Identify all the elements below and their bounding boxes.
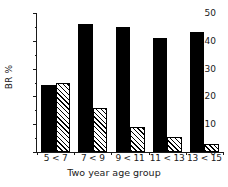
bar-solid bbox=[153, 38, 168, 152]
bar-solid bbox=[116, 27, 131, 152]
bar-group bbox=[41, 13, 70, 152]
x-tick-label: 7 < 9 bbox=[81, 153, 105, 163]
x-tick-label: 13 < 15 bbox=[187, 153, 222, 163]
bar-group bbox=[116, 13, 145, 152]
bar-solid bbox=[190, 32, 205, 152]
y-axis-label: BR % bbox=[4, 47, 14, 107]
bar-group bbox=[78, 13, 107, 152]
bar-hatched bbox=[56, 83, 71, 153]
x-axis-label: Two year age group bbox=[0, 167, 228, 178]
bar-hatched bbox=[204, 144, 219, 152]
bar-solid bbox=[78, 24, 93, 152]
bar-hatched bbox=[93, 108, 108, 152]
x-tick-label: 11 < 13 bbox=[150, 153, 185, 163]
bar-chart: BR % 01020304050 5 < 77 < 99 < 1111 < 13… bbox=[0, 0, 228, 187]
bar-series-layer bbox=[37, 13, 223, 152]
x-tick-mark bbox=[37, 152, 38, 155]
bar-solid bbox=[41, 85, 56, 152]
x-axis-ticks: 5 < 77 < 99 < 1111 < 1313 < 15 bbox=[37, 153, 223, 167]
bar-hatched bbox=[130, 127, 145, 152]
x-tick-mark bbox=[111, 152, 112, 155]
x-tick-mark bbox=[74, 152, 75, 155]
x-tick-label: 5 < 7 bbox=[44, 153, 68, 163]
x-tick-mark bbox=[223, 152, 224, 155]
bar-group bbox=[153, 13, 182, 152]
plot-area: 01020304050 bbox=[37, 13, 223, 152]
x-tick-label: 9 < 11 bbox=[115, 153, 144, 163]
bar-group bbox=[190, 13, 219, 152]
bar-hatched bbox=[167, 137, 182, 152]
